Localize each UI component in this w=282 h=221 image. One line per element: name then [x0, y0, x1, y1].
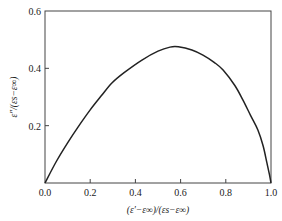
y-tick-label: 0.2	[29, 121, 42, 132]
x-axis-label: (ε′−ε∞)/(εs−ε∞)	[127, 205, 189, 216]
x-tick-label: 0.0	[39, 187, 52, 198]
x-axis-ticks: 0.00.20.40.60.81.0	[39, 179, 278, 198]
plot-frame	[45, 11, 271, 183]
y-axis-label: ε″/(εs−ε∞)	[9, 76, 20, 117]
x-tick-label: 0.6	[174, 187, 187, 198]
plot-border	[45, 11, 271, 183]
x-tick-label: 0.8	[220, 187, 233, 198]
y-tick-label: 0.4	[29, 63, 42, 74]
cole-cole-chart: 0.00.20.40.60.81.0 0.20.40.6 (ε′−ε∞)/(εs…	[0, 0, 282, 221]
y-axis-ticks: 0.20.40.6	[29, 6, 50, 132]
series-line	[45, 47, 271, 183]
x-tick-label: 0.2	[84, 187, 97, 198]
data-series	[45, 47, 271, 183]
y-tick-label: 0.6	[29, 6, 42, 17]
x-tick-label: 1.0	[265, 187, 278, 198]
x-tick-label: 0.4	[129, 187, 142, 198]
